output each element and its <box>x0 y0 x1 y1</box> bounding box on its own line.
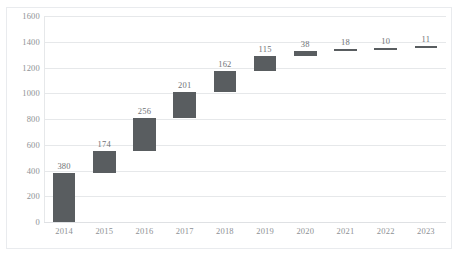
bar-2015 <box>93 151 116 173</box>
bar-2019 <box>254 56 277 71</box>
waterfall-chart: 02004006008001000120014001600 3801742562… <box>0 0 459 256</box>
bar-2023 <box>415 46 438 48</box>
bar-value-label-2018: 162 <box>218 59 231 69</box>
y-axis-tick-label: 800 <box>0 114 40 124</box>
plot-area: 38017425620116211538181011 <box>44 16 446 222</box>
gridline <box>44 119 446 120</box>
y-axis-tick-label: 1200 <box>0 63 40 73</box>
bar-value-label-2023: 11 <box>422 34 431 44</box>
bar-value-label-2021: 18 <box>341 37 350 47</box>
x-axis-tick-label-2014: 2014 <box>55 226 73 236</box>
gridline <box>44 93 446 94</box>
bar-value-label-2017: 201 <box>178 80 191 90</box>
bar-value-label-2022: 10 <box>381 36 390 46</box>
bar-value-label-2016: 256 <box>138 106 151 116</box>
x-axis-tick-label-2016: 2016 <box>136 226 154 236</box>
x-axis-tick-label-2017: 2017 <box>176 226 194 236</box>
y-axis-tick-label: 1600 <box>0 11 40 21</box>
gridline <box>44 16 446 17</box>
x-axis-tick-label-2022: 2022 <box>377 226 395 236</box>
x-axis-tick-label-2021: 2021 <box>337 226 355 236</box>
gridline <box>44 68 446 69</box>
gridline <box>44 222 446 223</box>
y-axis-tick-label: 600 <box>0 140 40 150</box>
x-axis-tick-label-2018: 2018 <box>216 226 234 236</box>
bar-value-label-2020: 38 <box>301 39 310 49</box>
gridline <box>44 196 446 197</box>
bar-2018 <box>214 71 237 92</box>
x-axis-tick-label-2015: 2015 <box>95 226 113 236</box>
x-axis-tick-label-2020: 2020 <box>296 226 314 236</box>
bar-2021 <box>334 49 357 51</box>
x-axis-tick-label-2023: 2023 <box>417 226 435 236</box>
y-axis-tick-label: 1400 <box>0 37 40 47</box>
bar-value-label-2014: 380 <box>57 161 70 171</box>
x-axis-tick-label-2019: 2019 <box>256 226 274 236</box>
bar-2014 <box>53 173 76 222</box>
y-axis-tick-label: 1000 <box>0 88 40 98</box>
y-axis-tick-label: 200 <box>0 191 40 201</box>
bar-2016 <box>133 118 156 151</box>
bar-2020 <box>294 51 317 56</box>
x-axis: 2014201520162017201820192020202120222023 <box>44 226 446 244</box>
bar-value-label-2019: 115 <box>259 44 272 54</box>
bar-2022 <box>374 48 397 50</box>
y-axis-tick-label: 400 <box>0 166 40 176</box>
y-axis: 02004006008001000120014001600 <box>0 16 40 222</box>
bar-value-label-2015: 174 <box>98 139 111 149</box>
bar-2017 <box>173 92 196 118</box>
y-axis-tick-label: 0 <box>0 217 40 227</box>
